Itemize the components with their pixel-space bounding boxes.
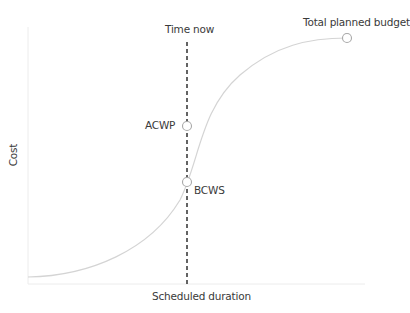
y-axis-label: Cost — [7, 144, 19, 167]
budget-marker — [343, 34, 352, 43]
bcws-label: BCWS — [194, 184, 225, 196]
x-axis-label: Scheduled duration — [152, 290, 251, 302]
total-planned-budget-label: Total planned budget — [303, 16, 410, 28]
acwp-label: ACWP — [145, 119, 175, 131]
bcws-marker — [183, 178, 192, 187]
acwp-marker — [183, 122, 192, 131]
time-now-label: Time now — [165, 23, 214, 35]
